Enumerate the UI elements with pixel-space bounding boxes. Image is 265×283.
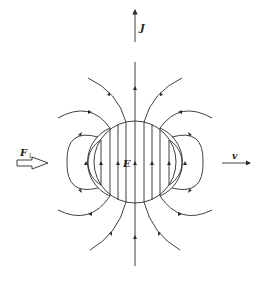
- label-current-density: J: [138, 22, 146, 33]
- label-lorentz-force-subscript: L: [29, 152, 33, 159]
- label-lorentz-force: F: [19, 147, 28, 158]
- interior-field-lines: [84, 122, 187, 202]
- field-diagram: J E F L v: [0, 0, 265, 283]
- label-velocity: v: [232, 151, 238, 161]
- label-electric-field: E: [122, 158, 131, 169]
